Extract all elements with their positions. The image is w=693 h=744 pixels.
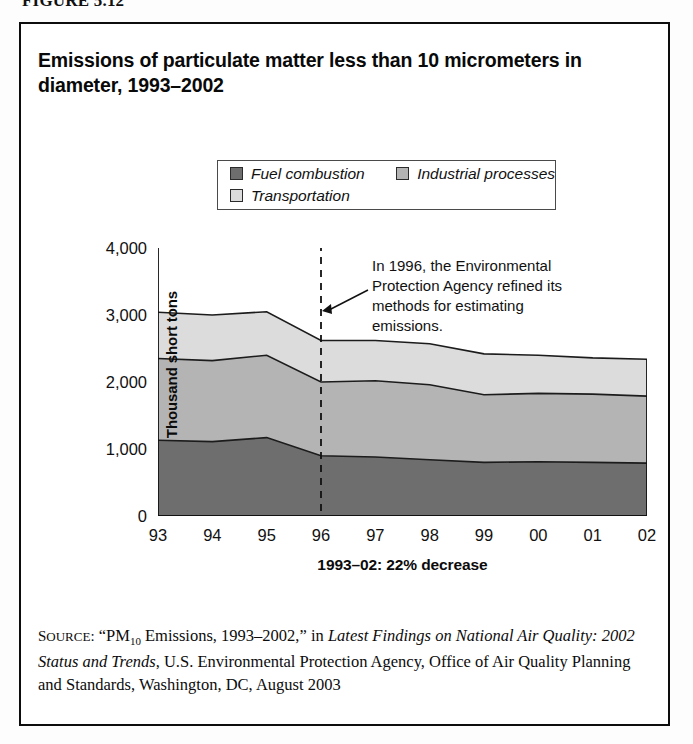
x-axis-caption: 1993–02: 22% decrease (158, 556, 647, 574)
legend-item-transportation: Transportation (230, 188, 406, 204)
legend-item-fuel-combustion: Fuel combustion (230, 166, 396, 182)
x-tick-label: 93 (138, 526, 178, 545)
chart-legend: Fuel combustion Industrial processes Tra… (217, 160, 556, 210)
y-tick-label: 3,000 (83, 306, 147, 325)
chart-title: Emissions of particulate matter less tha… (38, 48, 583, 98)
legend-label-industrial-processes: Industrial processes (417, 166, 555, 182)
x-tick-label: 99 (464, 526, 504, 545)
legend-swatch-icon-industrial-processes (396, 167, 409, 180)
legend-swatch-icon-fuel-combustion (230, 167, 243, 180)
x-tick-label: 98 (410, 526, 450, 545)
x-tick-label: 95 (247, 526, 287, 545)
chart-annotation: In 1996, the Environmental Protection Ag… (372, 256, 594, 336)
legend-row: Fuel combustion Industrial processes (230, 166, 555, 188)
legend-item-industrial-processes: Industrial processes (396, 166, 555, 182)
annotation-leader-line (329, 290, 368, 310)
y-tick-label: 1,000 (83, 440, 147, 459)
x-tick-label: 01 (573, 526, 613, 545)
source-note: SOURCE: “PM10 Emissions, 1993–2002,” in … (38, 624, 638, 697)
source-quoted-title: “PM10 Emissions, 1993–2002,” (99, 626, 307, 645)
y-axis-title: Thousand short tons (163, 260, 180, 470)
x-tick-label: 94 (192, 526, 232, 545)
y-tick-label: 4,000 (83, 239, 147, 258)
x-tick-label: 00 (518, 526, 558, 545)
legend-row: Transportation (230, 188, 555, 210)
figure-label: FIGURE 5.12 (22, 0, 124, 11)
legend-label-transportation: Transportation (251, 188, 350, 204)
annotation-arrow-icon (322, 304, 332, 314)
y-tick-label: 0 (83, 507, 147, 526)
legend-swatch-icon-transportation (230, 189, 243, 202)
legend-label-fuel-combustion: Fuel combustion (251, 166, 365, 182)
plot-area: Thousand short tons In 1996, the Environ… (158, 248, 647, 516)
source-prefix: SOURCE: (38, 628, 95, 644)
source-in-word: in (311, 626, 324, 645)
x-tick-label: 97 (355, 526, 395, 545)
y-tick-label: 2,000 (83, 373, 147, 392)
x-tick-label: 96 (301, 526, 341, 545)
x-tick-label: 02 (627, 526, 667, 545)
